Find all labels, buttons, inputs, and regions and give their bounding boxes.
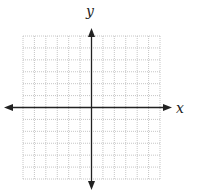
coordinate-plane: [0, 0, 197, 196]
y-axis-down-arrow-icon: [88, 181, 95, 190]
x-axis-right-arrow-icon: [163, 104, 172, 111]
y-axis-up-arrow-icon: [88, 28, 95, 37]
x-axis-left-arrow-icon: [4, 104, 13, 111]
y-axis-label: y: [86, 4, 94, 18]
axes: [4, 28, 172, 190]
x-axis-label: x: [176, 101, 184, 115]
